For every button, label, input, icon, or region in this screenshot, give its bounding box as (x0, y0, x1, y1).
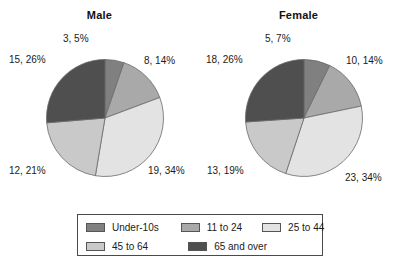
legend-entry-65-and-over: 65 and over (188, 238, 267, 254)
chart-title-male: Male (0, 9, 199, 21)
slice-label-male-11to24: 8, 14% (144, 55, 175, 66)
slice-label-male-under10s: 3, 5% (63, 33, 89, 44)
legend-swatch-25-to-44 (262, 223, 281, 232)
slice-label-female-11to24: 10, 14% (346, 55, 383, 66)
slice-label-female-under10s: 5, 7% (265, 33, 291, 44)
legend-entry-under-10s: Under-10s (86, 219, 159, 235)
legend-entry-25-to-44: 25 to 44 (262, 219, 324, 235)
legend-label-11-to-24: 11 to 24 (207, 222, 242, 233)
legend-swatch-under-10s (86, 223, 105, 232)
legend-entry-45-to-64: 45 to 64 (86, 238, 148, 254)
chart-title-female: Female (199, 9, 398, 21)
slice-label-female-65andover: 18, 26% (206, 54, 243, 65)
legend-label-under-10s: Under-10s (112, 222, 159, 233)
pie-slice-65-and-over (246, 60, 304, 122)
pie-male-svg (45, 58, 165, 178)
pie-slice-45-to-64 (47, 118, 105, 176)
legend-label-45-to-64: 45 to 64 (112, 241, 148, 252)
legend-swatch-45-to-64 (86, 242, 105, 251)
legend-label-25-to-44: 25 to 44 (288, 222, 324, 233)
chart-panel-male: Male 3, 5% 8, 14% 19, 34% 12, 21% 15, 26… (0, 0, 199, 200)
pie-female-svg (244, 58, 364, 178)
pie-slice-65-and-over (47, 60, 105, 123)
legend-swatch-65-and-over (188, 242, 207, 251)
legend-swatch-11-to-24 (181, 223, 200, 232)
slice-label-male-25to44: 19, 34% (148, 165, 185, 176)
legend-label-65-and-over: 65 and over (214, 241, 267, 252)
slice-label-male-45to64: 12, 21% (9, 165, 46, 176)
slice-label-female-45to64: 13, 19% (207, 165, 244, 176)
legend: Under-10s 11 to 24 25 to 44 45 to 64 65 … (77, 214, 323, 256)
legend-entry-11-to-24: 11 to 24 (181, 219, 242, 235)
pie-male (45, 58, 165, 178)
pie-female (244, 58, 364, 178)
pie-chart-figure: Male 3, 5% 8, 14% 19, 34% 12, 21% 15, 26… (0, 0, 398, 268)
slice-label-female-25to44: 23, 34% (345, 172, 382, 183)
legend-row-1: Under-10s 11 to 24 25 to 44 (86, 219, 316, 235)
chart-panel-female: Female 5, 7% 10, 14% 23, 34% 13, 19% 18,… (199, 0, 398, 200)
slice-label-male-65andover: 15, 26% (9, 54, 46, 65)
legend-row-2: 45 to 64 65 and over (86, 238, 316, 254)
